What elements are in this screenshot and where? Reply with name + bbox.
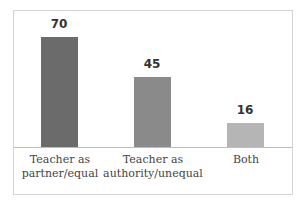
category-label-teacher-authority-unequal: Teacher as authority/unequal: [103, 153, 203, 181]
value-label-both: 16: [215, 103, 275, 117]
bar-teacher-authority-unequal: [134, 77, 171, 147]
value-label-teacher-partner-equal: 70: [29, 17, 89, 31]
plot-area: 70 45 16: [14, 11, 292, 147]
bar-teacher-partner-equal: [41, 37, 78, 147]
chart-frame: 70 45 16 Teacher as partner/equal Teache…: [13, 10, 293, 195]
value-label-teacher-authority-unequal: 45: [122, 57, 182, 71]
x-axis-line: [14, 147, 292, 148]
category-label-both: Both: [196, 153, 296, 167]
bar-both: [227, 123, 264, 147]
category-label-teacher-partner-equal: Teacher as partner/equal: [10, 153, 110, 181]
